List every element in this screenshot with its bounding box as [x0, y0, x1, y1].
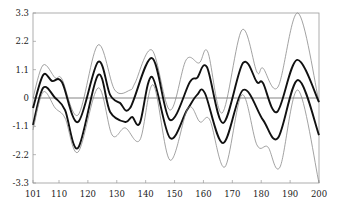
x-tick-label: 200 [311, 189, 327, 199]
y-tick-label: -2.2 [13, 150, 29, 160]
y-tick-label: 1.1 [15, 65, 29, 75]
series-upper-band-mean [33, 58, 319, 123]
y-tick-label: 2.2 [15, 36, 29, 46]
x-tick-label: 101 [25, 189, 41, 199]
x-tick-label: 170 [224, 189, 240, 199]
line-chart: 3.32.21.10-1.1-2.2-3.3 10111012013014015… [0, 0, 337, 212]
y-tick-label: 3.3 [15, 8, 29, 18]
x-tick-label: 150 [166, 189, 182, 199]
x-tick-label: 120 [80, 189, 96, 199]
x-tick-label: 110 [51, 189, 67, 199]
y-tick-label: 0 [24, 93, 29, 103]
y-axis: 3.32.21.10-1.1-2.2-3.3 [13, 8, 36, 188]
x-tick-label: 180 [253, 189, 269, 199]
x-tick-label: 190 [282, 189, 298, 199]
x-tick-label: 130 [109, 189, 125, 199]
series-upper-band-outer [33, 13, 319, 116]
x-tick-label: 160 [195, 189, 211, 199]
y-tick-label: -3.3 [13, 178, 29, 188]
x-tick-label: 140 [138, 189, 154, 199]
y-tick-label: -1.1 [13, 121, 29, 131]
